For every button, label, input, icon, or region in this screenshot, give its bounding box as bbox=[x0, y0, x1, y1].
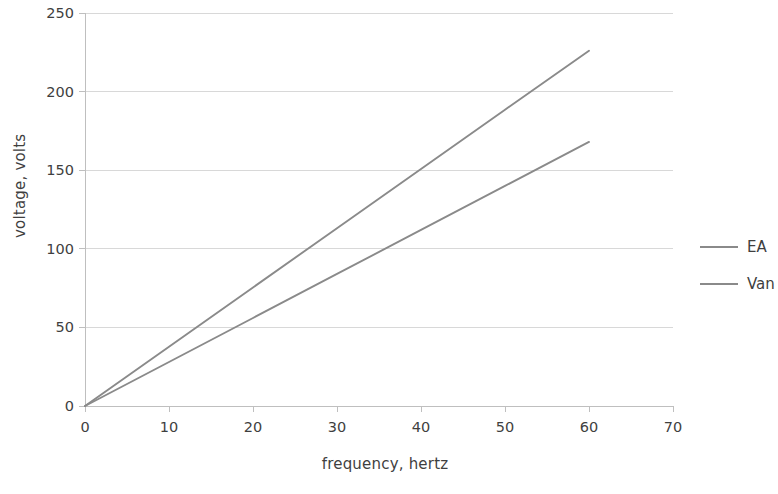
legend-item[interactable]: Van bbox=[700, 265, 778, 302]
axis-lines bbox=[85, 13, 673, 406]
legend-label: EA bbox=[747, 238, 767, 256]
legend-line-swatch-icon bbox=[700, 283, 738, 285]
data-series bbox=[85, 51, 589, 406]
legend-line-swatch-icon bbox=[700, 246, 738, 248]
y-axis-ticks bbox=[79, 13, 85, 406]
legend-item[interactable]: EA bbox=[700, 228, 778, 265]
chart-container: voltage, volts frequency, hertz 05010015… bbox=[0, 0, 778, 494]
gridlines bbox=[85, 13, 673, 406]
plot-area bbox=[0, 0, 778, 494]
x-axis-ticks bbox=[85, 406, 673, 412]
chart-legend: EAVan bbox=[700, 228, 778, 302]
legend-label: Van bbox=[747, 275, 775, 293]
series-line-van bbox=[85, 142, 589, 406]
series-line-ea bbox=[85, 51, 589, 406]
